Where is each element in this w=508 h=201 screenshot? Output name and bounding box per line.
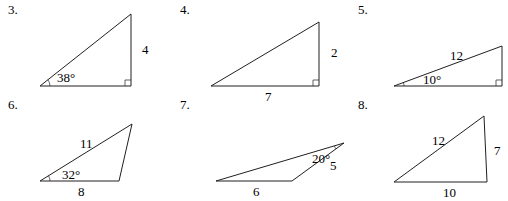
side-label: 12 bbox=[450, 48, 463, 63]
right-angle-marker bbox=[496, 80, 502, 86]
problem-number: 7. bbox=[180, 97, 190, 112]
angle-label: 32° bbox=[62, 167, 80, 182]
angle-arc bbox=[49, 176, 50, 181]
problem-number: 6. bbox=[8, 97, 18, 112]
problem-number: 3. bbox=[8, 2, 18, 17]
side-label: 7 bbox=[494, 143, 501, 158]
angle-arc bbox=[334, 146, 336, 149]
side-label: 4 bbox=[142, 42, 149, 57]
side-label: 7 bbox=[265, 89, 272, 104]
problem-7: 7.20°56 bbox=[180, 97, 344, 199]
problem-3: 3.438° bbox=[8, 2, 149, 86]
triangle-shape bbox=[394, 46, 502, 86]
side-label: 8 bbox=[78, 184, 85, 199]
triangle-shape bbox=[40, 124, 132, 181]
side-label: 2 bbox=[331, 45, 338, 60]
side-label: 6 bbox=[253, 184, 260, 199]
problem-number: 4. bbox=[180, 2, 190, 17]
angle-label: 10° bbox=[423, 72, 441, 87]
angle-arc bbox=[403, 83, 404, 86]
side-label: 11 bbox=[80, 136, 93, 151]
problem-number: 5. bbox=[358, 2, 368, 17]
problem-5: 5.1210° bbox=[358, 2, 502, 87]
triangle-shape bbox=[394, 116, 487, 182]
side-label: 10 bbox=[443, 185, 456, 200]
problem-4: 4.27 bbox=[180, 2, 338, 104]
problem-number: 8. bbox=[358, 97, 368, 112]
side-label: 5 bbox=[330, 158, 337, 173]
triangle-shape bbox=[211, 22, 319, 86]
angle-label: 20° bbox=[312, 151, 330, 166]
triangle-shape bbox=[40, 14, 131, 86]
angle-label: 38° bbox=[57, 70, 75, 85]
problem-6: 6.1132°8 bbox=[8, 97, 132, 199]
triangle-exercises: 3.438°4.275.1210°6.1132°87.20°568.12710 bbox=[0, 0, 508, 201]
problem-8: 8.12710 bbox=[358, 97, 501, 200]
right-angle-marker bbox=[125, 80, 131, 86]
angle-arc bbox=[48, 80, 50, 86]
right-angle-marker bbox=[313, 80, 319, 86]
side-label: 12 bbox=[432, 133, 445, 148]
